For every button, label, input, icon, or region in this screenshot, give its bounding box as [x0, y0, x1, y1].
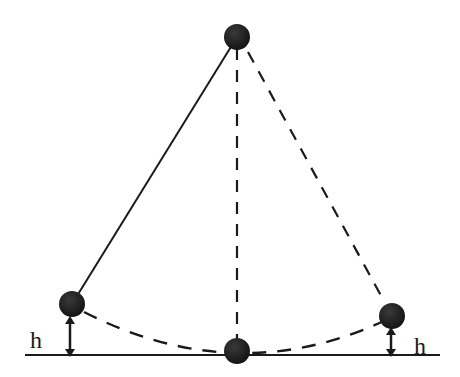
pendulum-string-solid	[72, 37, 237, 304]
right-bob	[379, 303, 405, 329]
right-height-label: h	[414, 333, 426, 359]
pivot-bob	[224, 24, 250, 50]
left-bob	[59, 291, 85, 317]
left-height-label: h	[30, 327, 42, 353]
bottom-bob	[224, 338, 250, 364]
pendulum-diagram: h h	[0, 0, 460, 377]
right-dashed-string	[248, 52, 385, 303]
